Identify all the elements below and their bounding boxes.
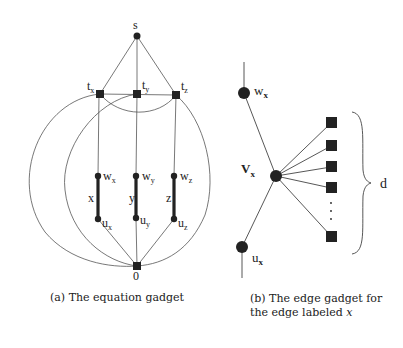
node-uy (133, 215, 139, 221)
edge-v-u (242, 176, 276, 247)
square-2 (326, 140, 337, 151)
node-u-x (236, 241, 248, 253)
caption-b-line2: the edge labeled x (250, 306, 353, 320)
caption-b-line1: (b) The edge gadget for (250, 292, 382, 306)
node-s (134, 33, 141, 40)
edge-ty-wy (136, 94, 137, 176)
edge-label-z: z (166, 191, 171, 205)
node-wy (133, 173, 139, 179)
edge-label-y: y (129, 191, 135, 205)
node-wz (171, 173, 177, 179)
label-tx: tx (87, 79, 94, 95)
label-v-x: Vx (241, 161, 255, 179)
square-3 (326, 161, 337, 172)
node-tx (96, 90, 104, 98)
label-uy: uy (140, 213, 150, 229)
edge-v-sq4 (276, 176, 331, 188)
label-s: s (133, 18, 138, 32)
node-ux (95, 216, 101, 222)
label-ty: ty (142, 78, 149, 94)
ellipsis-dot (330, 218, 332, 220)
edge-tz-wz (174, 95, 176, 176)
ellipsis-dot (330, 210, 332, 212)
caption-a: (a) The equation gadget (50, 291, 184, 305)
edge-v-sq5 (276, 176, 331, 236)
label-zero: 0 (133, 269, 139, 283)
node-ty (133, 90, 141, 98)
brace-label-d: d (380, 176, 387, 191)
label-w-x: wx (254, 83, 268, 100)
edge-uy-0 (136, 219, 137, 266)
node-v-x (270, 170, 282, 182)
label-wx: wx (103, 169, 116, 185)
edge-tx-wx (98, 94, 99, 176)
arc-ty-0 (65, 94, 137, 266)
edge-label-x: x (88, 191, 94, 205)
label-wz: wz (180, 169, 193, 185)
arc-tx-0 (29, 94, 137, 266)
label-wy: wy (142, 169, 155, 185)
node-w-x (238, 87, 250, 99)
edge-s-tx (100, 36, 137, 94)
label-ux: ux (102, 216, 112, 232)
label-u-x: ux (252, 250, 264, 267)
ellipsis-dot (330, 202, 332, 204)
brace (352, 112, 371, 254)
label-tz: tz (181, 79, 188, 95)
node-wx (95, 173, 101, 179)
caption-b-var: x (346, 306, 352, 319)
node-tz (172, 91, 180, 99)
square-1 (326, 117, 337, 128)
square-4 (326, 182, 337, 193)
caption-b-text: the edge labeled (250, 306, 346, 319)
node-uz (171, 216, 177, 222)
label-uz: uz (178, 216, 188, 232)
square-5 (326, 231, 337, 242)
